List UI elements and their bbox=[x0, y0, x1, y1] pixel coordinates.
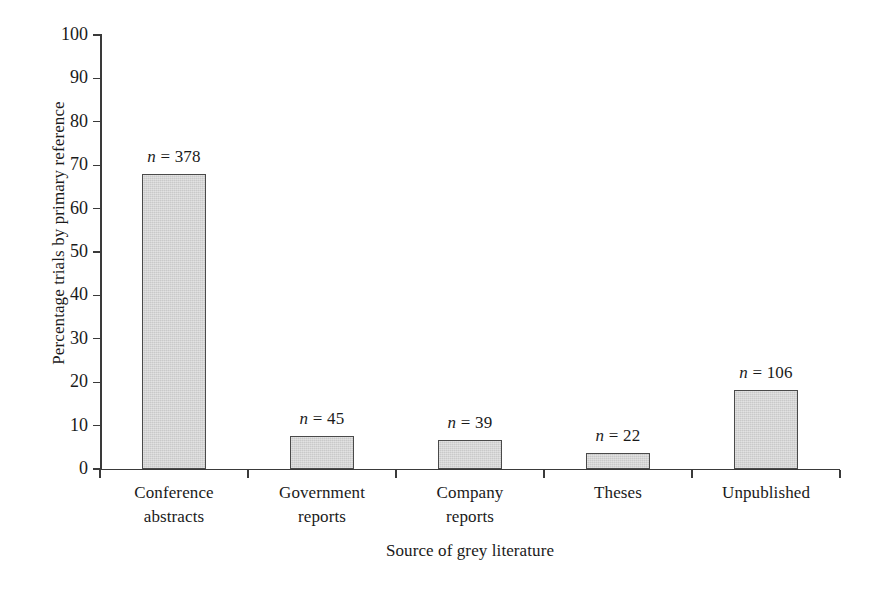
bar-value-label-symbol: n bbox=[596, 426, 605, 445]
y-axis-tick-label-text: 20 bbox=[46, 372, 88, 390]
x-axis-category-label-line: Company bbox=[437, 481, 504, 505]
bar bbox=[734, 390, 798, 469]
bar-value-label-number: 106 bbox=[767, 363, 793, 382]
bar-value-label-separator: = bbox=[748, 363, 767, 382]
x-axis-category-label-line: reports bbox=[437, 505, 504, 529]
x-axis-tick bbox=[99, 470, 100, 478]
y-axis-tick-label: 30 bbox=[40, 329, 88, 347]
y-axis-line bbox=[100, 34, 102, 470]
y-axis-tick-label-text: 10 bbox=[46, 416, 88, 434]
x-axis-tick bbox=[247, 470, 248, 478]
bar bbox=[438, 440, 502, 469]
x-axis-category-label-line: Unpublished bbox=[722, 481, 810, 505]
y-axis-tick-label: 40 bbox=[40, 285, 88, 303]
bar-value-label-number: 45 bbox=[327, 409, 344, 428]
y-axis-tick-label-text: 30 bbox=[46, 329, 88, 347]
x-axis-category-label-line: abstracts bbox=[134, 505, 213, 529]
y-axis-tick bbox=[93, 251, 100, 252]
bar-chart: Percentage trials by primary reference 0… bbox=[0, 0, 895, 589]
bar-value-label: n = 106 bbox=[739, 363, 793, 383]
y-axis-tick-label-text: 40 bbox=[46, 285, 88, 303]
y-axis-tick bbox=[93, 208, 100, 209]
bar-value-label: n = 45 bbox=[300, 409, 345, 429]
y-axis-tick-label: 90 bbox=[40, 68, 88, 86]
y-axis-tick bbox=[93, 121, 100, 122]
y-axis-tick-label: 60 bbox=[40, 199, 88, 217]
y-axis-tick bbox=[93, 382, 100, 383]
bar bbox=[586, 453, 650, 469]
y-axis-tick-label: 50 bbox=[40, 242, 88, 260]
bar-texture bbox=[143, 175, 205, 468]
bar-texture bbox=[587, 454, 649, 468]
bar-value-label-separator: = bbox=[604, 426, 623, 445]
y-axis-tick bbox=[93, 78, 100, 79]
y-axis-tick bbox=[93, 34, 100, 35]
bar bbox=[290, 436, 354, 469]
x-axis-category-label-line: Conference bbox=[134, 481, 213, 505]
bar-value-label-number: 22 bbox=[623, 426, 640, 445]
bar-texture bbox=[439, 441, 501, 468]
x-axis-category-label: Conferenceabstracts bbox=[134, 481, 213, 529]
y-axis-tick bbox=[93, 338, 100, 339]
bar-value-label: n = 39 bbox=[448, 413, 493, 433]
y-axis-tick-label-text: 60 bbox=[46, 199, 88, 217]
bar-value-label-symbol: n bbox=[300, 409, 309, 428]
x-axis-category-label: Governmentreports bbox=[279, 481, 365, 529]
x-axis-tick bbox=[395, 470, 396, 478]
x-axis-category-label: Companyreports bbox=[437, 481, 504, 529]
bar-value-label-symbol: n bbox=[739, 363, 748, 382]
x-axis-tick bbox=[839, 470, 840, 478]
x-axis-title: Source of grey literature bbox=[100, 541, 840, 561]
y-axis-tick bbox=[93, 425, 100, 426]
bar-value-label-number: 39 bbox=[475, 413, 492, 432]
y-axis-tick-label: 10 bbox=[40, 416, 88, 434]
y-axis-tick-label-text: 0 bbox=[46, 459, 88, 477]
bar-value-label-separator: = bbox=[156, 147, 175, 166]
y-axis-tick-label: 20 bbox=[40, 372, 88, 390]
bar bbox=[142, 174, 206, 469]
bar-value-label-symbol: n bbox=[147, 147, 156, 166]
bar-value-label-number: 378 bbox=[175, 147, 201, 166]
y-axis-tick-label-text: 70 bbox=[46, 155, 88, 173]
bar-texture bbox=[291, 437, 353, 468]
y-axis-tick-label: 100 bbox=[40, 25, 88, 43]
y-axis-tick-label: 80 bbox=[40, 112, 88, 130]
y-axis-tick-label-text: 90 bbox=[46, 68, 88, 86]
bar-value-label-symbol: n bbox=[448, 413, 457, 432]
y-axis-tick bbox=[93, 295, 100, 296]
bar-value-label-separator: = bbox=[308, 409, 327, 428]
bar-texture bbox=[735, 391, 797, 468]
bar-value-label-separator: = bbox=[456, 413, 475, 432]
x-axis-category-label-line: reports bbox=[279, 505, 365, 529]
x-axis-tick bbox=[691, 470, 692, 478]
y-axis-tick-label: 70 bbox=[40, 155, 88, 173]
x-axis-tick bbox=[543, 470, 544, 478]
y-axis-tick-label-text: 50 bbox=[46, 242, 88, 260]
bar-value-label: n = 22 bbox=[596, 426, 641, 446]
y-axis-tick bbox=[93, 165, 100, 166]
x-axis-category-label-line: Theses bbox=[594, 481, 642, 505]
x-axis-category-label-line: Government bbox=[279, 481, 365, 505]
x-axis-category-label: Theses bbox=[594, 481, 642, 505]
y-axis-tick-label: 0 bbox=[40, 459, 88, 477]
y-axis-tick-label-text: 100 bbox=[46, 25, 88, 43]
y-axis-tick-label-text: 80 bbox=[46, 112, 88, 130]
x-axis-category-label: Unpublished bbox=[722, 481, 810, 505]
bar-value-label: n = 378 bbox=[147, 147, 201, 167]
